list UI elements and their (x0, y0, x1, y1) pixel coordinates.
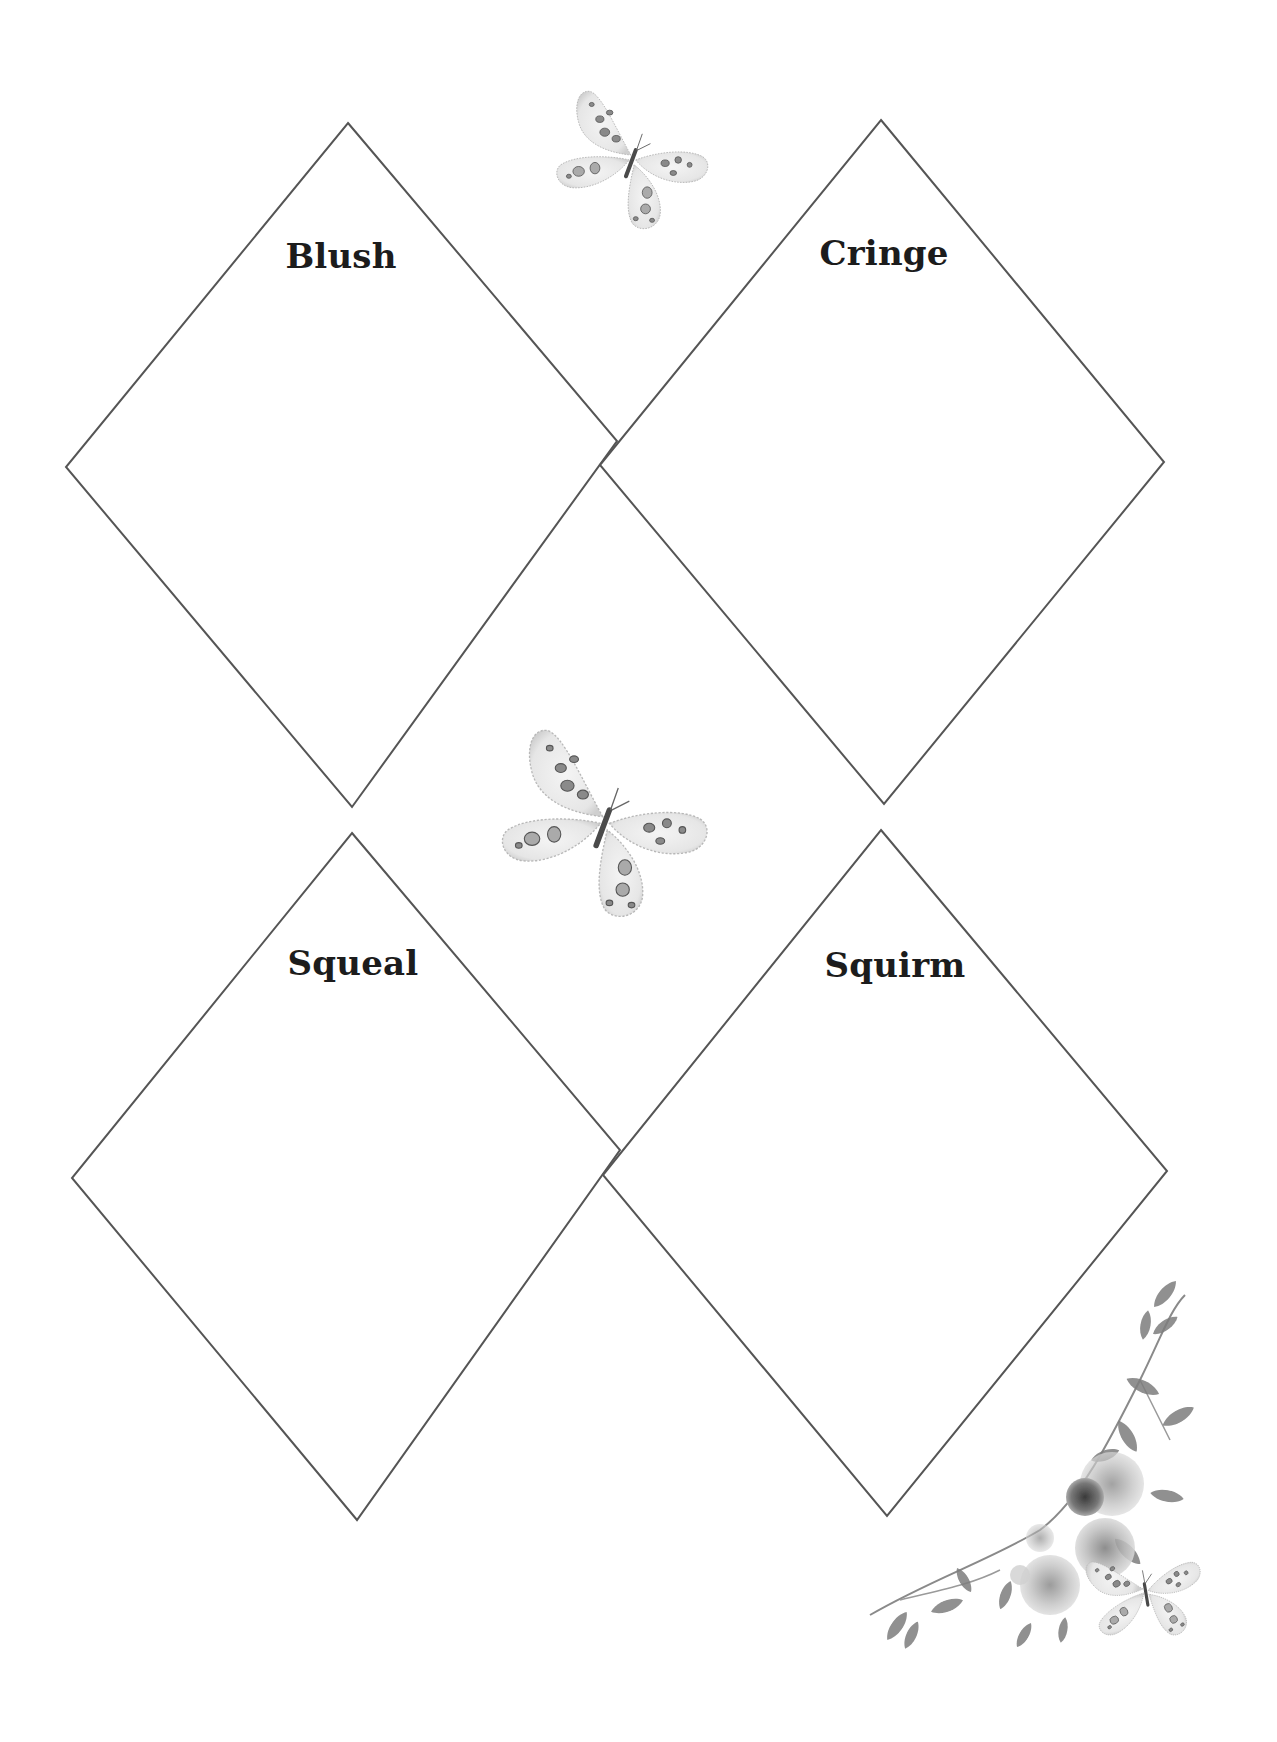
diamond-box-blush (66, 123, 617, 807)
diamond-label-cringe: Cringe (819, 233, 948, 273)
butterfly-icon-large (502, 730, 707, 916)
worksheet-canvas (0, 0, 1277, 1742)
diamond-label-blush: Blush (285, 236, 396, 276)
diamond-label-squeal: Squeal (288, 943, 419, 983)
diamond-box-cringe (600, 120, 1164, 804)
butterfly-icon-small (557, 91, 708, 228)
diamond-box-squeal (72, 833, 620, 1520)
diamond-box-squirm (603, 830, 1167, 1516)
diamond-label-squirm: Squirm (824, 945, 965, 985)
